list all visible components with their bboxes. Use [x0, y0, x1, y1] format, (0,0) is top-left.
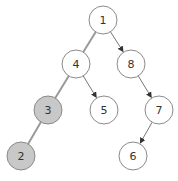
edges-group [28, 32, 152, 144]
tree-node-6: 6 [119, 142, 147, 170]
node-label: 1 [100, 14, 107, 27]
edge-3-to-2 [28, 122, 41, 144]
node-label: 7 [156, 104, 163, 117]
tree-node-3: 3 [34, 96, 62, 124]
node-label: 8 [128, 58, 135, 71]
nodes-group: 14835726 [7, 6, 173, 170]
edge-1-to-8 [111, 32, 123, 52]
node-label: 4 [73, 58, 80, 71]
tree-node-4: 4 [62, 50, 90, 78]
edge-4-to-3 [55, 76, 68, 98]
node-label: 5 [101, 104, 108, 117]
tree-diagram: 14835726 [0, 0, 178, 181]
tree-node-2: 2 [7, 142, 35, 170]
tree-node-1: 1 [89, 6, 117, 34]
edge-8-to-7 [138, 76, 151, 97]
edge-7-to-6 [140, 122, 152, 143]
tree-node-7: 7 [145, 96, 173, 124]
node-label: 2 [18, 150, 25, 163]
edge-4-to-5 [83, 76, 96, 97]
tree-node-8: 8 [117, 50, 145, 78]
node-label: 6 [130, 150, 137, 163]
edge-1-to-4 [83, 32, 95, 52]
tree-node-5: 5 [90, 96, 118, 124]
node-label: 3 [45, 104, 52, 117]
